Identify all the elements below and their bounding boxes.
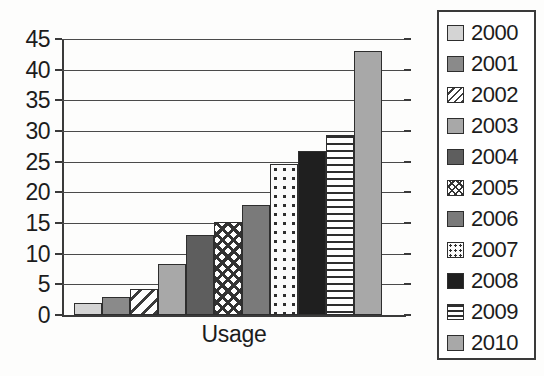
legend-label: 2008 [471,270,518,292]
y-axis-tick [55,253,62,255]
legend-item-2001: 2001 [447,48,534,79]
y-axis-tick-label: 10 [25,243,50,266]
legend-item-2009: 2009 [447,296,534,327]
legend-item-2006: 2006 [447,203,534,234]
legend-label: 2000 [471,22,518,44]
y-axis-tick-right [404,191,411,193]
y-axis-tick-labels: 454035302520151050 [0,39,50,315]
y-axis-tick [55,161,62,163]
gray-swatch [447,335,464,351]
medium-dark-gray-swatch [447,211,464,227]
legend-item-2004: 2004 [447,141,534,172]
y-axis-tick-right [404,130,411,132]
y-axis-tick [55,283,62,285]
y-axis-tick-label: 25 [25,151,50,174]
crosshatch-swatch [447,180,464,196]
gray-swatch [447,118,464,134]
legend-item-2000: 2000 [447,17,534,48]
dotted-swatch [447,242,464,258]
legend-item-2002: 2002 [447,79,534,110]
y-axis-tick-label: 35 [25,89,50,112]
bar-2007 [270,164,298,315]
bar-2002 [130,289,158,315]
y-axis-tick-right [404,253,411,255]
horizontal-line-swatch [447,304,464,320]
y-axis-tick-right [404,69,411,71]
y-axis-tick-label: 45 [25,28,50,51]
bar-2000 [74,303,102,315]
legend-label: 2010 [471,332,518,354]
bar-2009 [326,135,354,315]
y-axis-tick [55,99,62,101]
x-axis-title: Usage [62,321,406,348]
legend-label: 2005 [471,177,518,199]
medium-gray-swatch [447,56,464,72]
y-axis-tick [55,191,62,193]
y-axis-tick-right [404,161,411,163]
legend-item-2007: 2007 [447,234,534,265]
legend-label: 2009 [471,301,518,323]
y-axis-tick-right [404,222,411,224]
legend-label: 2003 [471,115,518,137]
y-axis-tick-right [404,283,411,285]
y-axis-tick-label: 5 [38,273,50,296]
y-axis-tick-label: 40 [25,59,50,82]
bar-2006 [242,205,270,315]
bar-2003 [158,264,186,315]
diagonal-stripe-swatch [447,87,464,103]
dark-gray-swatch [447,149,464,165]
bar-2001 [102,297,130,315]
legend-label: 2004 [471,146,518,168]
legend-label: 2001 [471,53,518,75]
y-axis-tick-right [404,38,411,40]
legend-item-2003: 2003 [447,110,534,141]
y-axis-tick-label: 0 [38,304,50,327]
legend-item-2005: 2005 [447,172,534,203]
plot-area [62,39,404,315]
legend-label: 2007 [471,239,518,261]
legend-item-2008: 2008 [447,265,534,296]
y-axis-tick-label: 20 [25,181,50,204]
legend-label: 2002 [471,84,518,106]
y-axis-tick [55,38,62,40]
bar-2010 [354,51,382,315]
bars [62,39,404,315]
y-axis-tick-label: 15 [25,212,50,235]
legend-label: 2006 [471,208,518,230]
y-axis-tick [55,130,62,132]
bar-2008 [298,151,326,315]
y-axis-tick-label: 30 [25,120,50,143]
bar-2004 [186,235,214,315]
bar-chart: 454035302520151050 Usage 200020012002200… [0,0,544,376]
x-axis-line [62,315,406,317]
legend-items: 2000200120022003200420052006200720082009… [447,17,534,358]
y-axis-tick [55,222,62,224]
legend-item-2010: 2010 [447,327,534,358]
light-gray-swatch [447,25,464,41]
near-black-swatch [447,273,464,289]
legend: 2000200120022003200420052006200720082009… [437,10,536,360]
bar-2005 [214,222,242,315]
y-axis-tick-right [404,314,411,316]
y-axis-tick [55,314,62,316]
y-axis-tick [55,69,62,71]
y-axis-tick-right [404,99,411,101]
